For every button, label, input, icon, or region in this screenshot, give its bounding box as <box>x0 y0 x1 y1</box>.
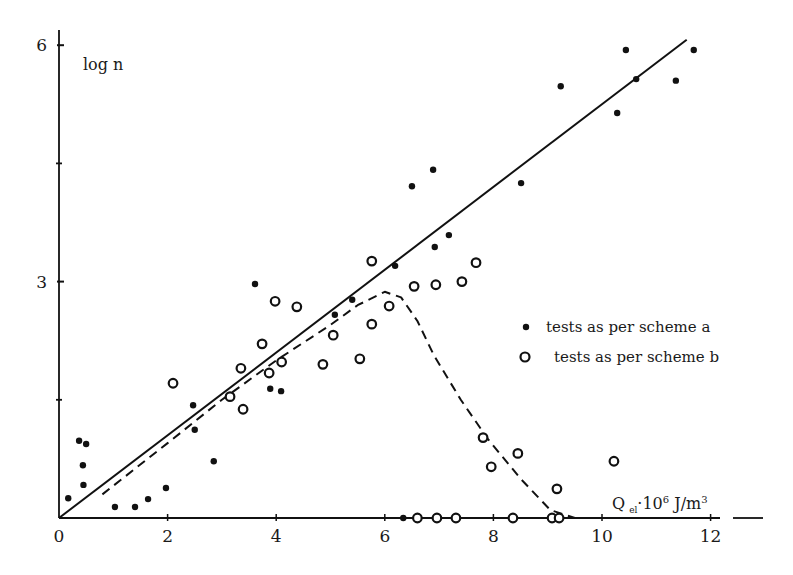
point-scheme-a <box>430 167 436 173</box>
y-tick-label: 6 <box>36 35 47 55</box>
point-scheme-a <box>633 76 639 82</box>
x-axis-label-mid: ·10 <box>637 494 662 513</box>
point-scheme-b <box>226 392 235 401</box>
x-tick-label: 2 <box>162 526 173 546</box>
point-scheme-b <box>553 485 562 494</box>
point-scheme-a <box>83 441 89 447</box>
point-scheme-a <box>392 263 398 269</box>
point-scheme-b <box>367 257 376 266</box>
point-scheme-b <box>472 258 481 267</box>
x-tick-label: 0 <box>54 526 65 546</box>
y-axis-label: log n <box>83 55 123 74</box>
x-tick-label: 8 <box>488 526 499 546</box>
point-scheme-a <box>446 232 452 238</box>
point-scheme-b <box>514 449 523 458</box>
point-scheme-b <box>239 405 248 414</box>
point-scheme-b <box>329 331 338 340</box>
point-scheme-a <box>623 47 629 53</box>
legend-marker-scheme-b <box>521 353 530 362</box>
x-tick-label: 12 <box>700 526 722 546</box>
point-scheme-b <box>356 355 365 364</box>
point-scheme-b <box>277 358 286 367</box>
point-scheme-a <box>145 496 151 502</box>
point-scheme-b <box>610 457 619 466</box>
point-scheme-a <box>190 402 196 408</box>
point-scheme-a <box>132 504 138 510</box>
point-scheme-a <box>192 427 198 433</box>
point-scheme-b <box>433 514 442 523</box>
point-scheme-b <box>413 514 422 523</box>
point-scheme-a <box>80 482 86 488</box>
point-scheme-b <box>410 282 419 291</box>
x-tick-label: 4 <box>271 526 282 546</box>
point-scheme-a <box>112 504 118 510</box>
point-scheme-b <box>319 360 328 369</box>
point-scheme-a <box>558 83 564 89</box>
point-scheme-a <box>65 495 71 501</box>
point-scheme-a <box>80 462 86 468</box>
solid-regression-line <box>59 40 687 518</box>
point-scheme-b <box>479 433 488 442</box>
point-scheme-a <box>614 110 620 116</box>
x-tick-label: 6 <box>379 526 390 546</box>
point-scheme-a <box>252 281 258 287</box>
trend-lines <box>59 40 687 518</box>
point-scheme-a <box>400 515 406 521</box>
point-scheme-b <box>293 303 302 312</box>
x-axis-label-main: Q <box>612 494 625 513</box>
point-scheme-a <box>211 458 217 464</box>
axes: 02468101236 <box>36 30 763 546</box>
point-scheme-b <box>169 379 178 388</box>
point-scheme-b <box>432 280 441 289</box>
point-scheme-a <box>518 180 524 186</box>
point-scheme-b <box>509 514 518 523</box>
point-scheme-b <box>487 462 496 471</box>
point-scheme-b <box>237 364 246 373</box>
point-scheme-a <box>691 47 697 53</box>
point-scheme-b <box>452 514 461 523</box>
chart: 02468101236 tests as per scheme a tests … <box>0 0 793 575</box>
point-scheme-a <box>332 311 338 317</box>
point-scheme-a <box>409 183 415 189</box>
point-scheme-b <box>385 302 394 311</box>
legend-marker-scheme-a <box>523 324 529 330</box>
point-scheme-b <box>271 297 280 306</box>
x-axis-label-sub: el <box>629 505 637 515</box>
legend-label-scheme-b: tests as per scheme b <box>554 348 719 366</box>
point-scheme-a <box>673 77 679 83</box>
point-scheme-b <box>265 369 274 378</box>
x-axis-label-unit: J/m <box>669 494 701 513</box>
point-scheme-a <box>278 388 284 394</box>
point-scheme-a <box>76 438 82 444</box>
point-scheme-a <box>432 244 438 250</box>
point-scheme-a <box>267 386 273 392</box>
point-scheme-a <box>349 297 355 303</box>
x-axis-label: Qel·106 J/m3 <box>612 494 708 515</box>
x-tick-label: 10 <box>591 526 613 546</box>
point-scheme-a <box>163 485 169 491</box>
legend-label-scheme-a: tests as per scheme a <box>546 318 710 336</box>
x-axis-label-sup2: 3 <box>701 494 707 505</box>
data-points <box>65 47 697 523</box>
point-scheme-b <box>258 340 267 349</box>
y-tick-label: 3 <box>36 272 47 292</box>
dashed-trend-line <box>102 292 575 518</box>
point-scheme-b <box>458 277 467 286</box>
legend: tests as per scheme a tests as per schem… <box>521 318 720 366</box>
point-scheme-b <box>555 514 564 523</box>
point-scheme-b <box>367 320 376 329</box>
